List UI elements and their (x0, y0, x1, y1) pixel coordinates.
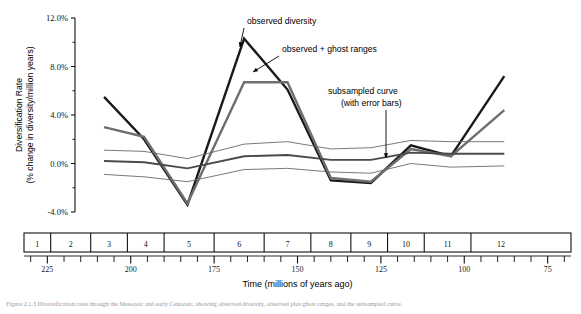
stage-box-label-7[interactable]: 7 (285, 240, 289, 249)
timescale-bar (24, 233, 571, 252)
stage-box-label-4[interactable]: 4 (144, 240, 148, 249)
x-axis-tick-label: 100 (458, 265, 470, 274)
diversification-rate-chart: 12.0%8.0%4.0%0.0%-4.0%Diversification Ra… (0, 0, 581, 300)
annotation-subsampled-curve-line2: (with error bars) (341, 98, 402, 108)
y-axis-tick-label: -4.0% (47, 207, 68, 217)
stage-box-label-10[interactable]: 10 (402, 240, 410, 249)
y-axis-tick-label: 12.0% (46, 13, 68, 23)
annotation-observed-diversity: observed diversity (247, 16, 317, 26)
stage-box-label-11[interactable]: 11 (444, 240, 452, 249)
y-axis-tick-label: 0.0% (50, 159, 68, 169)
x-axis-tick-label: 200 (125, 265, 137, 274)
y-axis-tick-label: 4.0% (50, 110, 68, 120)
annotation-observed-ghost-ranges: observed + ghost ranges (282, 44, 377, 54)
figure-chart: 12.0%8.0%4.0%0.0%-4.0%Diversification Ra… (0, 0, 581, 314)
stage-box-label-1[interactable]: 1 (35, 240, 39, 249)
stage-box-label-9[interactable]: 9 (367, 240, 371, 249)
x-axis-tick-label: 150 (292, 265, 304, 274)
x-axis-tick-label: 75 (544, 265, 552, 274)
x-axis-tick-label: 125 (375, 265, 387, 274)
y-axis-tick-label: 8.0% (50, 62, 68, 72)
stage-box-label-8[interactable]: 8 (329, 240, 333, 249)
x-axis-tick-label: 175 (208, 265, 220, 274)
y-axis-title-line-2: (% change in diversity/million years) (25, 46, 35, 183)
x-axis-title: Time (millions of years ago) (242, 279, 352, 289)
stage-box-label-2[interactable]: 2 (69, 240, 73, 249)
y-axis-title-line-1: Diversification Rate (14, 78, 24, 152)
stage-box-label-5[interactable]: 5 (187, 240, 191, 249)
x-axis-tick-label: 225 (41, 265, 53, 274)
series-line-observed-ghost-ranges (104, 82, 504, 203)
annotation-arrow-ghost-ranges-head (253, 68, 258, 72)
stage-box-label-3[interactable]: 3 (107, 240, 111, 249)
figure-caption: Figure 2.1.3 Diversification rates throu… (6, 300, 575, 308)
stage-box-label-6[interactable]: 6 (237, 240, 241, 249)
annotation-subsampled-curve-line1: subsampled curve (328, 86, 398, 96)
stage-box-label-12[interactable]: 12 (497, 240, 505, 249)
